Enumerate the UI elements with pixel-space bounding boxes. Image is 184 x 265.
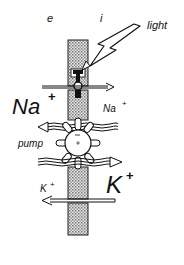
na-small-label: Na bbox=[103, 104, 116, 114]
intracellular-label: i bbox=[100, 13, 102, 24]
k-large-label: K bbox=[106, 173, 122, 197]
membrane-diagram bbox=[0, 0, 184, 265]
pump-label: pump bbox=[18, 139, 43, 149]
light-label: light bbox=[147, 20, 167, 31]
k-small-sup: + bbox=[50, 181, 55, 189]
lightning-bolt-icon bbox=[82, 24, 140, 70]
extracellular-label: e bbox=[47, 13, 53, 24]
k-small-label: K bbox=[40, 184, 47, 194]
na-small-sup: + bbox=[122, 100, 127, 108]
k-large-sup: + bbox=[126, 169, 134, 182]
na-large-label: Na bbox=[12, 96, 40, 118]
na-large-sup: + bbox=[48, 90, 56, 103]
